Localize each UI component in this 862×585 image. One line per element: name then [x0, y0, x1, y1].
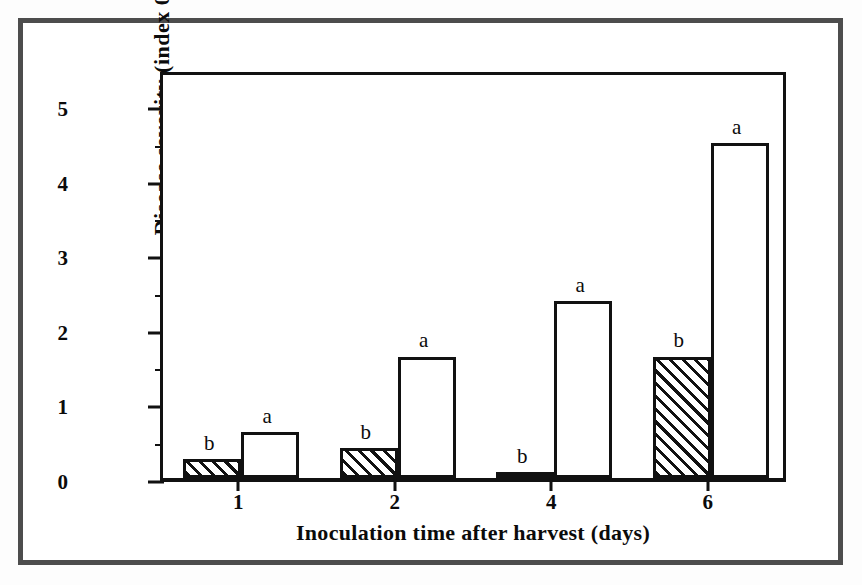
x-axis-title: Inoculation time after harvest (days) — [160, 520, 786, 546]
bar-hatched-4 — [496, 472, 554, 478]
bar-significance-letter: b — [502, 444, 542, 469]
bar-significance-letter: b — [189, 431, 229, 456]
bar-open-6 — [711, 143, 769, 478]
bar-significance-letter: a — [247, 404, 287, 429]
bar-significance-letter: a — [404, 328, 444, 353]
figure-container: Disease severity (index 0-5) 012345 1246… — [0, 0, 862, 585]
y-tick-label: 4 — [32, 171, 68, 196]
bar-significance-letter: b — [346, 420, 386, 445]
y-tick-label: 1 — [32, 395, 68, 420]
y-tick-label: 0 — [32, 470, 68, 495]
bar-open-2 — [398, 357, 456, 479]
bar-significance-letter: b — [659, 328, 699, 353]
bar-significance-letter: a — [560, 273, 600, 298]
bar-open-4 — [554, 301, 612, 478]
bar-hatched-2 — [340, 448, 398, 478]
x-tick-label-2: 2 — [365, 490, 425, 515]
bar-hatched-6 — [653, 357, 711, 479]
x-tick-label-1: 1 — [208, 490, 268, 515]
y-tick-label: 2 — [32, 320, 68, 345]
y-tick-label: 5 — [32, 97, 68, 122]
bar-significance-letter: a — [717, 115, 757, 140]
bar-open-1 — [241, 432, 299, 478]
y-tick-label: 3 — [32, 246, 68, 271]
bar-hatched-1 — [183, 459, 241, 478]
x-tick-label-4: 4 — [521, 490, 581, 515]
x-tick-label-6: 6 — [678, 490, 738, 515]
